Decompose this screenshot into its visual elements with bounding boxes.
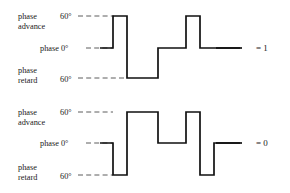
bottom-zero-label: phase 0° xyxy=(40,139,68,148)
top-retard-label-line1: phase xyxy=(18,66,37,75)
top-retard-value: 60° xyxy=(60,75,72,84)
top-waveform-trace xyxy=(100,16,240,78)
top-retard-label-line2: retard xyxy=(18,76,38,85)
waveform-group-bottom: phase advance 60° phase 0° phase retard … xyxy=(18,108,268,182)
waveform-group-top: phase advance 60° phase 0° phase retard … xyxy=(18,12,268,85)
bottom-result-label: = 0 xyxy=(256,138,268,148)
bottom-retard-value: 60° xyxy=(60,172,72,181)
top-result-label: = 1 xyxy=(256,43,268,53)
bottom-retard-label-line1: phase xyxy=(18,163,37,172)
bottom-advance-label-line2: advance xyxy=(18,118,45,127)
phase-shift-waveform-figure: phase advance 60° phase 0° phase retard … xyxy=(0,0,290,193)
top-advance-label-line2: advance xyxy=(18,22,45,31)
top-advance-value: 60° xyxy=(60,12,72,21)
bottom-advance-label-line1: phase xyxy=(18,108,37,117)
top-advance-label-line1: phase xyxy=(18,12,37,21)
bottom-advance-value: 60° xyxy=(60,108,72,117)
bottom-retard-label-line2: retard xyxy=(18,173,38,182)
top-zero-label: phase 0° xyxy=(40,44,68,53)
